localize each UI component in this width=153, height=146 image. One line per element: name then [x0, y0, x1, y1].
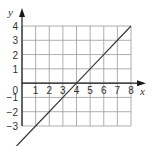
x-tick-label: 7	[115, 85, 121, 96]
y-tick-label: 4	[12, 21, 18, 32]
tick-labels: 1234567843210−1−2−3	[7, 21, 135, 132]
x-tick-label: 2	[46, 85, 52, 96]
y-tick-label: −1	[7, 92, 19, 103]
y-tick-label: −3	[7, 121, 19, 132]
y-tick-label: −2	[7, 107, 19, 118]
line-chart: 1234567843210−1−2−3 x y	[0, 0, 153, 146]
x-tick-label: 6	[101, 85, 107, 96]
x-axis-label: x	[139, 85, 145, 97]
x-tick-label: 1	[33, 85, 39, 96]
y-tick-label: 3	[12, 35, 18, 46]
y-tick-label: 1	[12, 64, 18, 75]
x-tick-label: 5	[87, 85, 93, 96]
x-tick-label: 8	[128, 85, 134, 96]
data-series	[14, 26, 131, 146]
series-line	[14, 26, 131, 146]
grid-lines	[22, 26, 131, 126]
x-tick-label: 4	[74, 85, 80, 96]
y-axis-label: y	[7, 6, 13, 18]
y-axis-arrow-icon	[19, 8, 25, 17]
y-tick-label: 2	[12, 50, 18, 61]
